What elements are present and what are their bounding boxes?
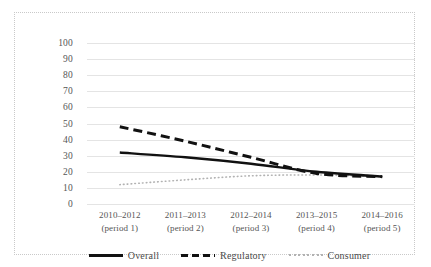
- y-tick-label-40: 40: [63, 135, 73, 145]
- dashed-line-icon: [181, 250, 215, 260]
- y-tick-label-0: 0: [68, 199, 73, 209]
- x-tick-label-period-2: 2011–2013 (period 2): [153, 209, 219, 245]
- y-tick-label-50: 50: [63, 119, 73, 129]
- chart-figure: 100 90 80 70 60 50 40 30 20 10 0: [0, 0, 431, 267]
- x-tick-range-3: 2012–2014: [218, 209, 284, 222]
- x-axis: 2010–2012 (period 1) 2011–2013 (period 2…: [87, 209, 415, 245]
- legend-item-regulatory[interactable]: Regulatory: [181, 250, 266, 261]
- legend-label-consumer: Consumer: [328, 250, 371, 261]
- y-tick-label-80: 80: [63, 70, 73, 80]
- x-tick-period-4: (period 4): [284, 222, 350, 235]
- series-layer: [87, 43, 415, 204]
- x-tick-range-1: 2010–2012: [87, 209, 153, 222]
- y-tick-label-100: 100: [58, 38, 73, 48]
- x-tick-period-1: (period 1): [87, 222, 153, 235]
- y-tick-label-90: 90: [63, 54, 73, 64]
- plot-area: [87, 43, 415, 204]
- legend-label-regulatory: Regulatory: [220, 250, 266, 261]
- y-tick-label-10: 10: [63, 183, 73, 193]
- x-tick-label-period-4: 2013–2015 (period 4): [284, 209, 350, 245]
- series-line-regulatory: [120, 127, 382, 177]
- x-tick-range-2: 2011–2013: [153, 209, 219, 222]
- x-tick-period-2: (period 2): [153, 222, 219, 235]
- legend-label-overall: Overall: [128, 250, 159, 261]
- y-tick-label-30: 30: [63, 151, 73, 161]
- solid-line-icon: [89, 250, 123, 260]
- x-tick-label-period-5: 2014–2016 (period 5): [349, 209, 415, 245]
- x-tick-range-4: 2013–2015: [284, 209, 350, 222]
- legend-item-overall[interactable]: Overall: [89, 250, 159, 261]
- x-tick-period-3: (period 3): [218, 222, 284, 235]
- y-axis: 100 90 80 70 60 50 40 30 20 10 0: [29, 43, 81, 204]
- x-tick-range-5: 2014–2016: [349, 209, 415, 222]
- legend-item-consumer[interactable]: Consumer: [289, 250, 371, 261]
- chart-legend: Overall Regulatory Consumer: [29, 247, 430, 263]
- y-tick-label-20: 20: [63, 167, 73, 177]
- x-tick-label-period-1: 2010–2012 (period 1): [87, 209, 153, 245]
- x-tick-period-5: (period 5): [349, 222, 415, 235]
- y-tick-label-70: 70: [63, 86, 73, 96]
- x-tick-label-period-3: 2012–2014 (period 3): [218, 209, 284, 245]
- dotted-line-icon: [289, 250, 323, 260]
- y-tick-label-60: 60: [63, 102, 73, 112]
- chart-frame: 100 90 80 70 60 50 40 30 20 10 0: [14, 12, 415, 255]
